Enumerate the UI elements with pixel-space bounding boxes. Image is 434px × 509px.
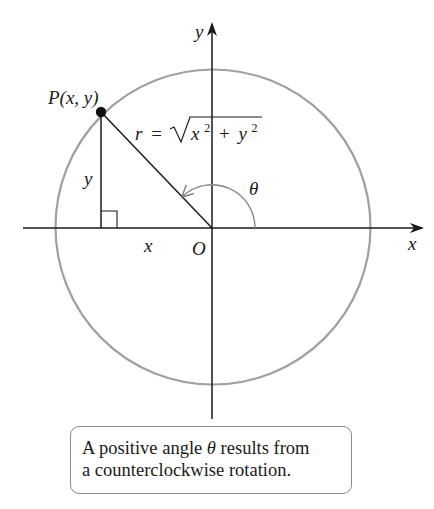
caption-theta: θ: [207, 438, 216, 458]
point-p: [96, 107, 106, 117]
theta-label: θ: [249, 178, 258, 199]
vertical-leg-label: y: [82, 168, 93, 189]
horizontal-leg-label: x: [143, 235, 153, 256]
point-p-label: P(x, y): [47, 87, 99, 109]
diagram-canvas: P(x, y) r = x 2 + y 2 y x O x y θ A posi…: [0, 0, 434, 509]
caption-line-2: a counterclockwise rotation.: [82, 459, 351, 481]
caption-box: A positive angle θ results from a counte…: [70, 426, 352, 494]
right-angle-marker: [101, 211, 117, 228]
origin-label: O: [192, 238, 206, 259]
angle-arc: [183, 185, 256, 228]
formula-r: r: [135, 123, 143, 144]
radius-formula: r =: [135, 123, 162, 144]
x-axis-label: x: [407, 233, 417, 254]
caption-line-1: A positive angle θ results from: [82, 437, 351, 459]
radius-formula-radicand: x 2 + y 2: [190, 115, 258, 144]
y-axis-label: y: [193, 21, 204, 42]
formula-equals: =: [151, 123, 162, 144]
